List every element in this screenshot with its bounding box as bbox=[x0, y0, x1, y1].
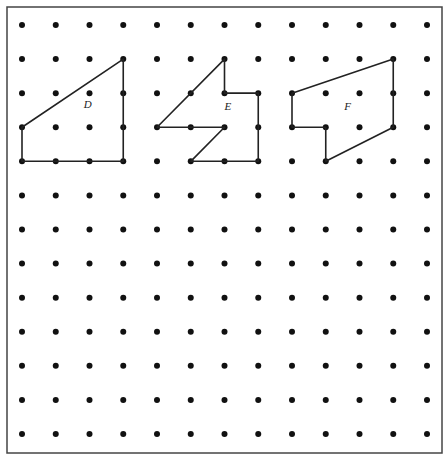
grid-dot bbox=[53, 261, 59, 267]
grid-dot bbox=[87, 56, 93, 62]
grid-dot bbox=[289, 295, 295, 301]
dot-grid-figure: DEF bbox=[0, 0, 445, 461]
grid-dot bbox=[19, 192, 25, 198]
grid-dot bbox=[188, 226, 194, 232]
grid-dot bbox=[154, 261, 160, 267]
grid-dot bbox=[53, 124, 59, 130]
grid-dot bbox=[87, 192, 93, 198]
grid-dot bbox=[323, 22, 329, 28]
grid-dot bbox=[120, 192, 126, 198]
grid-dot bbox=[19, 397, 25, 403]
grid-dot bbox=[87, 397, 93, 403]
shape-d-outline bbox=[22, 59, 123, 161]
grid-dot bbox=[87, 124, 93, 130]
grid-dot bbox=[424, 431, 430, 437]
grid-dot bbox=[357, 22, 363, 28]
grid-dot bbox=[53, 295, 59, 301]
grid-dot bbox=[424, 363, 430, 369]
grid-dot bbox=[255, 329, 261, 335]
grid-dot bbox=[222, 363, 228, 369]
grid-dot bbox=[87, 90, 93, 96]
grid-dot bbox=[255, 56, 261, 62]
grid-dot bbox=[424, 192, 430, 198]
grid-dot bbox=[87, 22, 93, 28]
grid-dot bbox=[154, 295, 160, 301]
grid-dot bbox=[323, 363, 329, 369]
grid-dot bbox=[255, 431, 261, 437]
grid-dot bbox=[390, 363, 396, 369]
grid-dot bbox=[188, 397, 194, 403]
grid-dot bbox=[390, 329, 396, 335]
grid-dot bbox=[120, 329, 126, 335]
grid-dot bbox=[120, 295, 126, 301]
grid-dot bbox=[222, 226, 228, 232]
grid-dot bbox=[289, 226, 295, 232]
grid-dot bbox=[424, 226, 430, 232]
grid-dot bbox=[188, 192, 194, 198]
grid-dot bbox=[120, 397, 126, 403]
grid-dot bbox=[357, 431, 363, 437]
grid-dot bbox=[357, 56, 363, 62]
grid-dot bbox=[53, 431, 59, 437]
grid-dot bbox=[154, 397, 160, 403]
grid-dot bbox=[154, 90, 160, 96]
grid-dot bbox=[357, 90, 363, 96]
grid-dot bbox=[357, 192, 363, 198]
grid-dot bbox=[390, 22, 396, 28]
grid-dot bbox=[222, 431, 228, 437]
grid-dot bbox=[289, 431, 295, 437]
grid-dot bbox=[19, 363, 25, 369]
grid-dot bbox=[19, 22, 25, 28]
grid-dot bbox=[19, 431, 25, 437]
grid-dot bbox=[87, 226, 93, 232]
grid-dot bbox=[87, 295, 93, 301]
grid-dot bbox=[154, 158, 160, 164]
grid-dot bbox=[323, 192, 329, 198]
grid-dot bbox=[255, 397, 261, 403]
grid-dot bbox=[87, 431, 93, 437]
grid-dot bbox=[19, 329, 25, 335]
grid-dot bbox=[289, 22, 295, 28]
grid-dot bbox=[19, 261, 25, 267]
grid-dot bbox=[357, 158, 363, 164]
grid-dot bbox=[188, 295, 194, 301]
grid-dot bbox=[188, 22, 194, 28]
grid-dot bbox=[390, 397, 396, 403]
grid-dot bbox=[154, 192, 160, 198]
grid-dot bbox=[424, 261, 430, 267]
grid-dot bbox=[222, 261, 228, 267]
grid-dot bbox=[188, 261, 194, 267]
grid-dot bbox=[424, 124, 430, 130]
shape-e-outline bbox=[157, 59, 258, 161]
grid-dot bbox=[19, 56, 25, 62]
grid-dot bbox=[188, 56, 194, 62]
grid-dot bbox=[19, 295, 25, 301]
grid-dot bbox=[53, 226, 59, 232]
grid-dot bbox=[289, 363, 295, 369]
grid-dot bbox=[289, 329, 295, 335]
grid-dot bbox=[255, 226, 261, 232]
grid-dot bbox=[222, 329, 228, 335]
grid-dot bbox=[357, 295, 363, 301]
grid-dot bbox=[357, 124, 363, 130]
polygons: DEF bbox=[22, 59, 393, 161]
grid-dot bbox=[390, 295, 396, 301]
grid-dot bbox=[424, 397, 430, 403]
grid-dot bbox=[87, 261, 93, 267]
grid-dot bbox=[289, 261, 295, 267]
grid-dot bbox=[188, 363, 194, 369]
grid-dot bbox=[390, 192, 396, 198]
grid-dot bbox=[323, 329, 329, 335]
grid-dot bbox=[19, 226, 25, 232]
grid-dot bbox=[154, 56, 160, 62]
grid-dot bbox=[154, 226, 160, 232]
grid-dot bbox=[154, 329, 160, 335]
grid-dot bbox=[222, 295, 228, 301]
grid-dot bbox=[323, 226, 329, 232]
grid-dot bbox=[424, 295, 430, 301]
grid-dot bbox=[87, 363, 93, 369]
grid-dot bbox=[222, 397, 228, 403]
grid-dot bbox=[357, 397, 363, 403]
grid-dot bbox=[87, 329, 93, 335]
grid-dot bbox=[323, 56, 329, 62]
